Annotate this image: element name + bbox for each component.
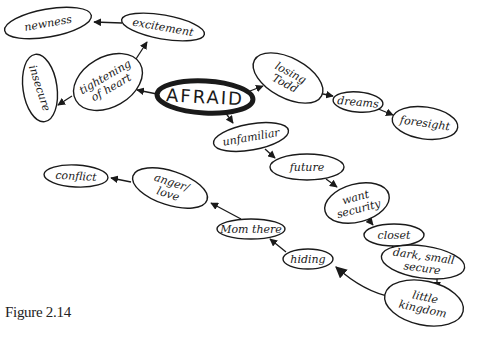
node-label: AFRAID bbox=[166, 84, 245, 109]
edge-anger-love-to-conflict bbox=[111, 178, 131, 182]
node-anger-love: anger/love bbox=[128, 160, 213, 216]
node-conflict: conflict bbox=[43, 163, 108, 188]
edge-afraid-to-losing-todd bbox=[250, 86, 263, 91]
node-label: future bbox=[289, 161, 325, 174]
node-foresight: foresight bbox=[390, 103, 460, 144]
edge-unfamiliar-to-future bbox=[265, 149, 275, 158]
node-dark-small-secure: dark, smallsecure bbox=[379, 240, 467, 283]
mind-map-canvas: AFRAIDtighteningof heartexcitementnewnes… bbox=[0, 0, 490, 342]
node-mom-there: Mom there bbox=[217, 219, 285, 239]
node-label: conflict bbox=[55, 169, 98, 184]
node-want-security: wantsecurity bbox=[320, 176, 394, 230]
node-insecure: insecure bbox=[18, 52, 61, 124]
node-future: future bbox=[270, 154, 344, 180]
figure-caption: Figure 2.14 bbox=[5, 304, 71, 321]
node-newness: newness bbox=[2, 2, 94, 45]
node-afraid: AFRAID bbox=[156, 79, 254, 116]
edge-little-kingdom-to-hiding bbox=[336, 267, 392, 297]
node-unfamiliar: unfamiliar bbox=[211, 118, 290, 157]
node-label: Mom there bbox=[219, 223, 282, 236]
node-closet: closet bbox=[364, 224, 424, 246]
node-little-kingdom: littlekingdom bbox=[380, 273, 467, 333]
node-hiding: hiding bbox=[283, 249, 333, 269]
edge-tightening-to-insecure bbox=[58, 96, 72, 105]
nodes-layer: AFRAIDtighteningof heartexcitementnewnes… bbox=[2, 2, 467, 333]
node-losing-todd: losingTodd bbox=[245, 43, 331, 114]
node-dreams: dreams bbox=[332, 90, 384, 114]
node-excitement: excitement bbox=[120, 8, 207, 46]
edge-mom-there-to-anger-love bbox=[211, 203, 241, 219]
edge-hiding-to-mom-there bbox=[270, 239, 286, 252]
node-label: closet bbox=[378, 229, 411, 242]
edge-excitement-to-newness bbox=[94, 22, 122, 23]
node-label: hiding bbox=[290, 253, 325, 266]
edge-future-to-want-security bbox=[326, 179, 337, 187]
edge-afraid-to-tightening bbox=[137, 90, 157, 94]
edge-want-security-to-closet bbox=[368, 219, 373, 225]
